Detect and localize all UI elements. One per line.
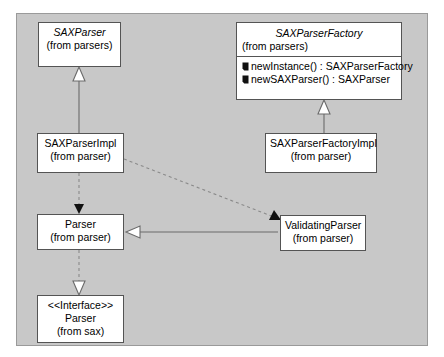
class-package: (from sax) — [42, 325, 119, 338]
class-package: (from parser) — [42, 150, 119, 163]
class-name: SAXParserFactoryImpl — [270, 137, 372, 150]
class-package: (from parser) — [285, 232, 361, 245]
operation-signature: newSAXParser() : SAXParser — [251, 73, 390, 86]
class-package: (from parsers) — [43, 39, 116, 52]
class-name: Parser — [42, 312, 119, 325]
operation-signature: newInstance() : SAXParserFactory — [251, 60, 413, 73]
class-node-validatingparser[interactable]: ValidatingParser (from parser) — [280, 215, 366, 251]
class-header-saxparserfactory: SAXParserFactory (from parsers) — [237, 23, 401, 57]
class-node-saxparser[interactable]: SAXParser (from parsers) — [38, 22, 121, 67]
class-name: SAXParserFactory — [242, 27, 396, 40]
class-package: (from parsers) — [242, 40, 396, 53]
class-header-saxparserimpl: SAXParserImpl (from parser) — [38, 134, 123, 167]
public-operation-icon — [242, 62, 249, 71]
class-package: (from parser) — [270, 150, 372, 163]
class-node-parser-interface[interactable]: <<Interface>> Parser (from sax) — [37, 295, 124, 343]
public-operation-icon — [242, 75, 249, 84]
class-node-parser[interactable]: Parser (from parser) — [37, 214, 124, 250]
class-header-validatingparser: ValidatingParser (from parser) — [281, 216, 365, 249]
class-node-saxparserfactoryimpl[interactable]: SAXParserFactoryImpl (from parser) — [265, 133, 377, 173]
class-header-parser: Parser (from parser) — [38, 215, 123, 248]
class-name: SAXParser — [43, 26, 116, 39]
class-operations-saxparserfactory: newInstance() : SAXParserFactory newSAXP… — [237, 57, 401, 90]
class-header-saxparser: SAXParser (from parsers) — [39, 23, 120, 56]
class-header-parser-interface: <<Interface>> Parser (from sax) — [38, 296, 123, 342]
uml-class-diagram: SAXParser (from parsers) SAXParserFactor… — [0, 0, 444, 357]
class-node-saxparserimpl[interactable]: SAXParserImpl (from parser) — [37, 133, 124, 173]
operation-row[interactable]: newSAXParser() : SAXParser — [242, 73, 397, 86]
class-node-saxparserfactory[interactable]: SAXParserFactory (from parsers) newInsta… — [236, 22, 402, 100]
class-name: Parser — [42, 218, 119, 231]
class-name: SAXParserImpl — [42, 137, 119, 150]
class-name: ValidatingParser — [285, 219, 361, 232]
operation-row[interactable]: newInstance() : SAXParserFactory — [242, 60, 397, 73]
class-stereotype: <<Interface>> — [42, 299, 119, 312]
class-header-saxparserfactoryimpl: SAXParserFactoryImpl (from parser) — [266, 134, 376, 167]
class-package: (from parser) — [42, 231, 119, 244]
